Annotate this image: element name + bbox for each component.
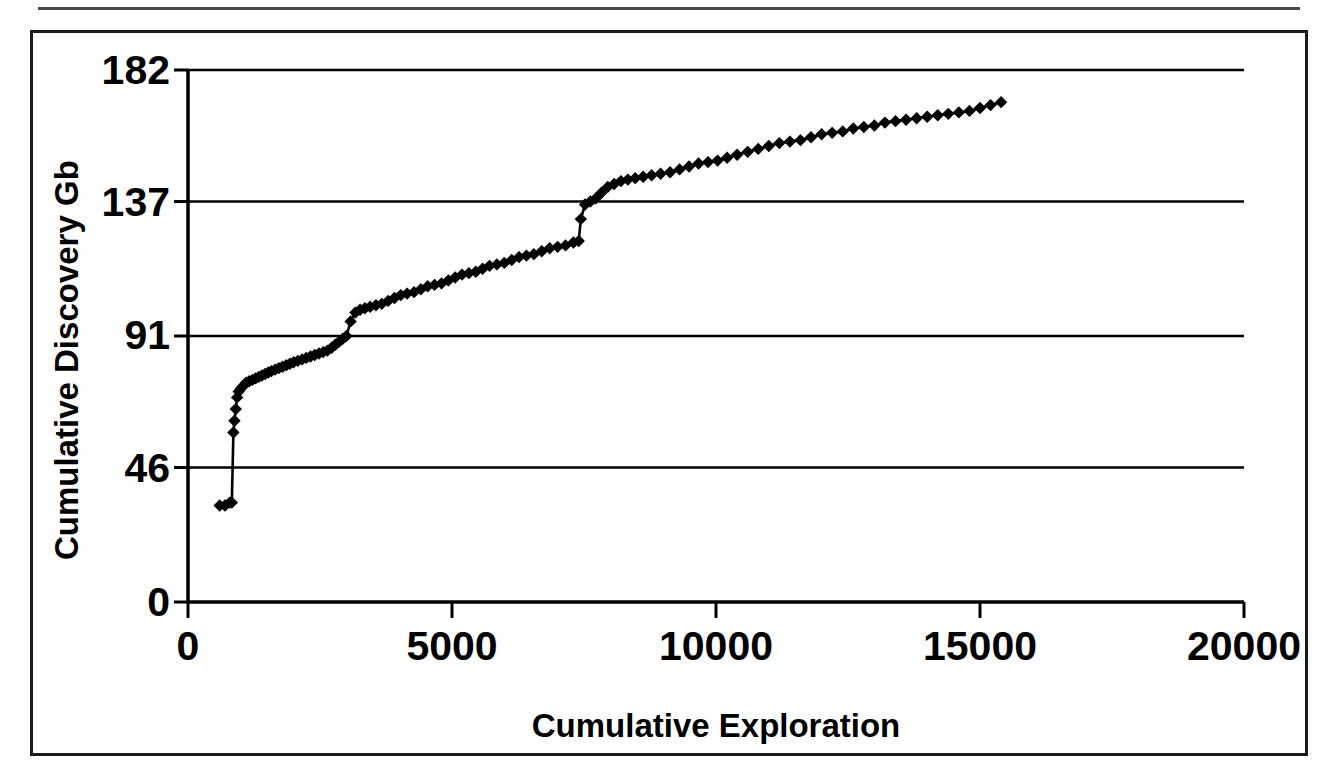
top-horizontal-rule	[38, 7, 1300, 10]
chart-figure-frame	[30, 30, 1308, 756]
